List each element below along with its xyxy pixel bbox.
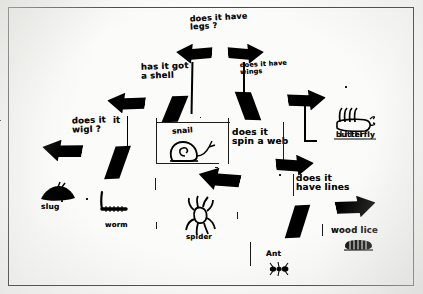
speckle-8 [215,167,218,168]
connector-snail-down-1 [155,178,156,190]
connector-ant-stem [250,242,251,266]
speckle-1 [61,200,63,202]
answer-worm-label: worm [105,222,128,229]
question-legs-label: does it have legs ? [190,13,248,33]
speckle-3 [200,117,201,118]
answer-woodlice-label: wood lice [331,226,378,235]
snail-box-top [156,122,230,123]
speckle-6 [279,174,281,176]
spider-drawing [182,196,220,236]
question-web-label: does it spin a web [232,128,289,147]
worksheet-page: does it have legs ? has it got a shell d… [0,0,423,294]
connector-lines-stem [293,174,294,196]
woodlice-drawing [342,238,376,252]
answer-ant-label: Ant [266,250,281,258]
slug-drawing [38,182,78,204]
answer-spider-label: spider [186,234,212,241]
question-wiggle-label: does it wigl ? [72,115,107,134]
worm-drawing [99,190,129,216]
question-shell-label: has it got a shell [141,61,189,80]
speckle-7 [237,212,238,219]
snail-box-left [156,118,157,164]
connector-butterfly-base [304,140,317,142]
question-wings-label: does it have wings [240,60,288,76]
ant-drawing [266,261,292,277]
answer-slug-label: slug [41,203,60,211]
speckle-5 [345,86,347,88]
connector-snail-down-2 [156,222,157,229]
question-lines-label: does it have lines [296,174,350,193]
connector-woodlice-stem [322,224,323,236]
answer-butterfly-label: butterfly [336,131,375,139]
connector-butterfly-stem [304,100,306,142]
snail-box-right [228,118,229,164]
answer-snail-label: snail [172,126,194,135]
snail-drawing [168,136,220,164]
speckle-4 [0,120,1,121]
question-wiggle-it: it [113,116,120,125]
speckle-2 [86,198,88,200]
